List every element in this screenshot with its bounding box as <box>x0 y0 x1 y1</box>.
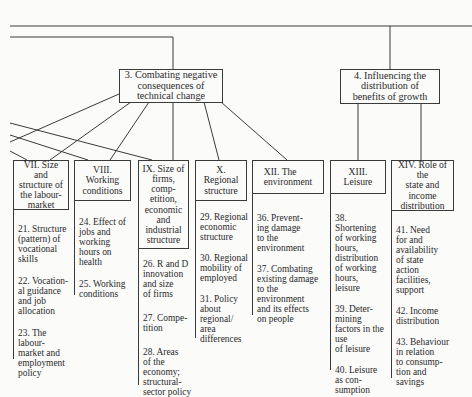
item-26: 26. R and D innovation and size of firms <box>143 259 194 299</box>
area-label: XII. The environment <box>264 167 313 187</box>
goal-label: 3. Combating negative consequences of te… <box>125 70 218 102</box>
items-column-xii: 36. Prevent- ing damage to the environme… <box>252 194 328 315</box>
item-38: 38. Shortening of working hours, distrib… <box>335 213 390 293</box>
item-23: 23. The labour- market and employment po… <box>18 328 73 378</box>
item-43: 43. Behaviour in relation to consump- ti… <box>396 337 461 387</box>
item-42: 42. Income distribution <box>396 306 461 326</box>
item-28: 28. Areas of the economy; structural- se… <box>143 347 194 397</box>
item-37: 37. Combating existing damage to the env… <box>257 264 328 324</box>
items-column-x: 29. Regional economic structure 30. Regi… <box>195 201 251 338</box>
area-label: VIII. Working conditions <box>78 165 127 196</box>
goal-box-3: 3. Combating negative consequences of te… <box>119 69 223 103</box>
area-box-x: X. Regional structure <box>195 160 247 201</box>
items-column-xiii: 38. Shortening of working hours, distrib… <box>330 194 390 370</box>
area-label: IX. Size of firms, comp- etition, econom… <box>142 164 185 246</box>
item-31: 31. Policy about regional/ area differen… <box>200 294 251 344</box>
area-label: XIII. Leisure <box>334 167 382 187</box>
goal-box-4: 4. Influencing the distribution of benef… <box>340 69 440 104</box>
item-22: 22. Vocation- al guidance and job alloca… <box>18 276 73 316</box>
items-column-viii: 24. Effect of jobs and working hours on … <box>74 201 136 295</box>
item-29: 29. Regional economic structure <box>200 212 251 242</box>
goal-label: 4. Influencing the distribution of benef… <box>353 71 428 103</box>
item-39: 39. Deter- mining factors in the use of … <box>335 304 390 354</box>
item-41: 41. Need for and availability of state a… <box>396 225 461 295</box>
items-column-xiv: 41. Need for and availability of state a… <box>391 211 461 378</box>
item-27: 27. Compe- tition <box>143 313 194 333</box>
area-box-xiii: XIII. Leisure <box>330 160 386 194</box>
item-40: 40. Leisure as con- sumption <box>335 365 390 395</box>
item-24: 24. Effect of jobs and working hours on … <box>79 217 136 267</box>
item-21: 21. Structure (pattern) of vocational sk… <box>18 224 73 264</box>
items-column-vii: 21. Structure (pattern) of vocational sk… <box>13 210 73 359</box>
area-box-vii: VII. Size and structure of the labour- m… <box>13 160 69 210</box>
area-box-viii: VIII. Working conditions <box>74 160 131 201</box>
item-25: 25. Working conditions <box>79 279 136 299</box>
items-column-ix: 26. R and D innovation and size of firms… <box>138 249 194 385</box>
area-label: X. Regional structure <box>199 165 243 196</box>
area-label: VII. Size and structure of the labour- m… <box>17 160 65 211</box>
area-box-ix: IX. Size of firms, comp- etition, econom… <box>138 160 189 249</box>
area-label: XIV. Role of the state and income distri… <box>395 160 450 211</box>
item-30: 30. Regional mobility of employed <box>200 253 251 283</box>
area-box-xii: XII. The environment <box>252 160 324 194</box>
area-box-xiv: XIV. Role of the state and income distri… <box>391 160 454 211</box>
item-36: 36. Prevent- ing damage to the environme… <box>257 213 328 253</box>
